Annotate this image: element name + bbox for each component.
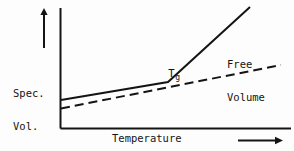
x-axis-direction-arrow-icon (238, 137, 283, 145)
tg-subscript: g (175, 73, 180, 82)
free-volume-annotation: Free Volume (227, 37, 265, 125)
free-volume-label-line2: Volume (227, 92, 265, 103)
y-axis-label-line2: Vol. (13, 121, 45, 132)
glass-transition-annotation: Tg (143, 57, 180, 94)
tg-symbol: T (168, 67, 174, 79)
specific-volume-vs-temperature-figure: Spec. Vol. Temperature Tg Free Volume (0, 0, 294, 151)
y-axis-label: Spec. Vol. (13, 66, 45, 151)
y-axis-label-line1: Spec. (13, 88, 45, 99)
y-axis-direction-arrow-icon (40, 8, 47, 48)
x-axis-label: Temperature (112, 133, 182, 144)
free-volume-label-line1: Free (227, 59, 265, 70)
